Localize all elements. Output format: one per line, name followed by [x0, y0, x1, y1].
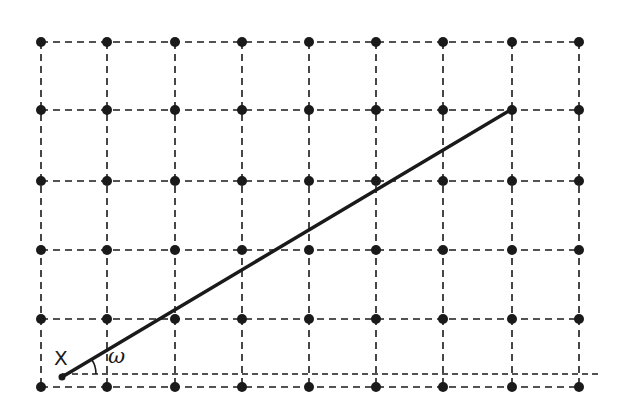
lattice-point — [574, 245, 584, 255]
lattice-point — [371, 314, 381, 324]
lattice-point — [170, 176, 180, 186]
lattice-point — [102, 176, 112, 186]
lattice-point — [371, 382, 381, 392]
lattice-point — [170, 314, 180, 324]
lattice-point — [371, 105, 381, 115]
lattice-point — [237, 37, 247, 47]
lattice-point — [36, 176, 46, 186]
lattice-point — [574, 176, 584, 186]
lattice-point — [438, 245, 448, 255]
lattice-point — [371, 245, 381, 255]
lattice-point — [36, 105, 46, 115]
lattice-diagram — [0, 0, 621, 413]
lattice-point — [438, 314, 448, 324]
lattice-point — [438, 382, 448, 392]
lattice-point — [237, 105, 247, 115]
lattice-point — [304, 245, 314, 255]
lattice-point — [507, 37, 517, 47]
lattice-point — [36, 37, 46, 47]
lattice-point — [304, 314, 314, 324]
lattice-point — [574, 314, 584, 324]
lattice-point — [170, 37, 180, 47]
lattice-point — [438, 105, 448, 115]
lattice-point — [170, 382, 180, 392]
angle-label: ω — [108, 344, 125, 368]
lattice-point — [170, 105, 180, 115]
lattice-point — [237, 314, 247, 324]
lattice-point — [102, 245, 112, 255]
lattice-point — [574, 382, 584, 392]
lattice-point — [371, 37, 381, 47]
lattice-point — [438, 176, 448, 186]
lattice-point — [507, 314, 517, 324]
line-segment — [59, 109, 513, 381]
lattice-point — [507, 245, 517, 255]
angle-arc — [92, 360, 96, 374]
lattice-point — [102, 382, 112, 392]
lattice-point — [170, 245, 180, 255]
lattice-point — [304, 176, 314, 186]
lattice-point — [438, 37, 448, 47]
lattice-point — [102, 37, 112, 47]
lattice-point — [507, 382, 517, 392]
lattice-point — [304, 382, 314, 392]
grid-lines — [41, 42, 579, 387]
lattice-point — [304, 37, 314, 47]
lattice-point — [304, 105, 314, 115]
lattice-point — [507, 176, 517, 186]
lattice-points — [36, 37, 584, 392]
lattice-point — [36, 314, 46, 324]
lattice-point — [574, 37, 584, 47]
lattice-point — [237, 176, 247, 186]
lattice-point — [237, 245, 247, 255]
lattice-point — [507, 105, 517, 115]
lattice-point — [102, 105, 112, 115]
lattice-point — [371, 176, 381, 186]
lattice-point — [36, 245, 46, 255]
lattice-point — [574, 105, 584, 115]
lattice-point — [237, 382, 247, 392]
lattice-point — [36, 382, 46, 392]
start-point-label: X — [54, 346, 68, 370]
lattice-point — [102, 314, 112, 324]
